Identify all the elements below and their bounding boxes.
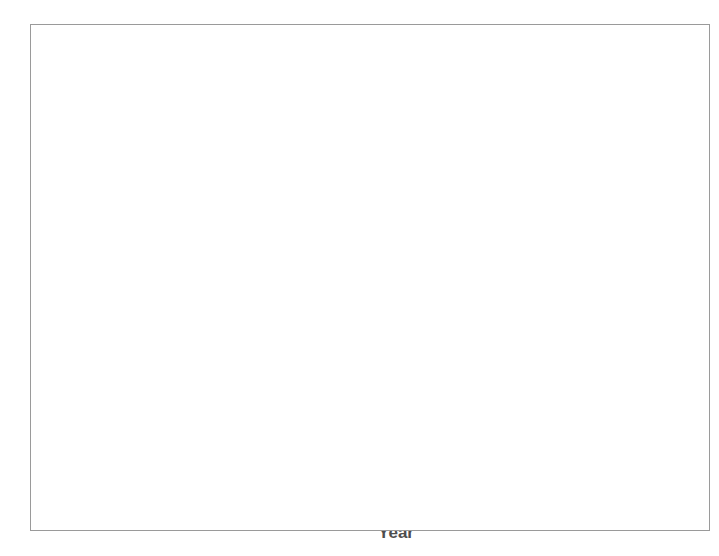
figure-outer-frame [30,24,710,531]
chart-figure: 05001000150020002500 1965196719691971197… [0,0,719,556]
